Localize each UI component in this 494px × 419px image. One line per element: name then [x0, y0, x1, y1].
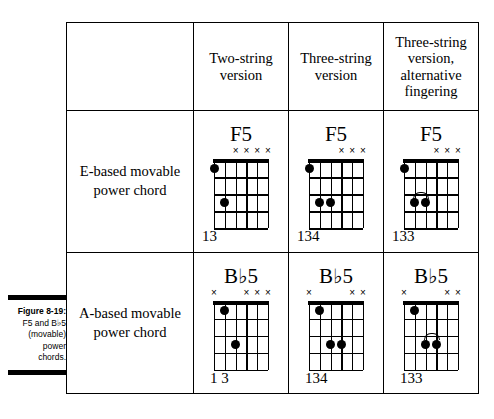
caption-line-1-pre: F5 and B [23, 318, 58, 328]
chord-quality: 5 [242, 122, 253, 146]
finger-dot [400, 164, 409, 173]
column-header-three-string-label: Three-string version [289, 50, 383, 83]
caption-line-4: chords. [8, 352, 66, 364]
fret-line [214, 319, 268, 320]
finger-dot [210, 164, 219, 173]
chord-quality: 5 [437, 264, 448, 288]
row-header-a-based: A-based movable power chord [67, 252, 194, 393]
fret-line [214, 194, 268, 195]
string-line [458, 302, 459, 370]
finger-numbers: 13 [202, 228, 280, 244]
chord-diagram: B♭5××××1 3 [202, 262, 280, 384]
column-header-three-string-alt: Three-string version, alternative finger… [384, 23, 479, 111]
mute-x-icon: × [443, 288, 452, 298]
nut [403, 159, 459, 163]
fretboard-grid [404, 160, 458, 228]
finger-numbers: 134 [297, 370, 383, 386]
string-line [363, 160, 364, 228]
chord-root: F [420, 122, 432, 146]
fret-line [214, 177, 268, 178]
chord-quality: 5 [342, 264, 353, 288]
table-row-e-based: E-based movable power chord F5××××13 F5×… [67, 111, 479, 252]
fret-line [309, 319, 363, 320]
mute-x-icon: × [242, 146, 251, 156]
caption-title: Figure 8-19: [8, 306, 66, 318]
caption-line-1: F5 and B♭5 [8, 318, 66, 330]
nut [308, 301, 364, 305]
string-line [268, 302, 269, 370]
finger-dot [315, 306, 324, 315]
fretboard-diagram: ××××13 [202, 146, 280, 242]
fret-line [214, 353, 268, 354]
chord-root: B [224, 264, 238, 288]
fretboard-grid [309, 160, 363, 228]
mute-x-icon: × [253, 146, 262, 156]
mute-x-icon: × [348, 146, 357, 156]
fret-line [309, 194, 363, 195]
finger-dot [220, 306, 229, 315]
mute-x-icon: × [443, 146, 452, 156]
table-header-row: Two-string version Three-string version … [67, 23, 479, 111]
chord-diagram: F5×××134 [297, 120, 375, 242]
muted-string-markers: ××× [297, 288, 375, 302]
muted-string-markers: ××× [297, 146, 375, 160]
mute-x-icon: × [337, 146, 346, 156]
chord-quality: 5 [432, 122, 443, 146]
chord-cell-bb5-two-string: B♭5××××1 3 [194, 252, 289, 393]
fret-line [404, 353, 458, 354]
figure-caption: Figure 8-19: F5 and B♭5 (movable) power … [8, 295, 66, 375]
fretboard-diagram: ×××134 [297, 146, 375, 242]
nut [213, 301, 269, 305]
mute-x-icon: × [454, 146, 463, 156]
muted-string-markers: ××× [392, 288, 470, 302]
finger-numbers: 133 [392, 370, 478, 386]
chord-root: B [319, 264, 333, 288]
table-row-a-based: A-based movable power chord B♭5××××1 3 B… [67, 252, 479, 393]
caption-rule-bottom [8, 370, 66, 375]
finger-dot [421, 198, 430, 207]
chord-diagram: F5×××133 [392, 120, 470, 242]
finger-dot [410, 306, 419, 315]
fret-line [214, 211, 268, 212]
muted-string-markers: ××× [392, 146, 470, 160]
fretboard-diagram: ×××133 [392, 288, 470, 384]
fretboard-diagram: ×××133 [392, 146, 470, 242]
finger-numbers: 134 [297, 228, 375, 244]
row-header-e-based: E-based movable power chord [67, 111, 194, 252]
finger-dot [432, 340, 441, 349]
mute-x-icon: × [359, 146, 368, 156]
column-header-three-string-alt-label: Three-string version, alternative finger… [384, 34, 478, 100]
chord-name: B♭5 [202, 264, 280, 288]
mute-x-icon: × [305, 288, 314, 298]
column-header-three-string: Three-string version [289, 23, 384, 111]
nut [213, 159, 269, 163]
muted-string-markers: ×××× [202, 288, 280, 302]
fret-line [404, 319, 458, 320]
fretboard-diagram: ××××1 3 [202, 288, 280, 384]
row-header-e-based-label: E-based movable power chord [67, 162, 193, 200]
string-line [268, 160, 269, 228]
fret-line [309, 211, 363, 212]
fret-line [309, 336, 363, 337]
fretboard-grid [214, 302, 268, 370]
chord-quality: 5 [337, 122, 348, 146]
fret-line [404, 211, 458, 212]
chord-name: B♭5 [297, 264, 375, 288]
mute-x-icon: × [231, 146, 240, 156]
fretboard-diagram: ×××134 [297, 288, 375, 384]
mute-x-icon: × [264, 288, 273, 298]
fretboard-grid [214, 160, 268, 228]
column-header-two-string: Two-string version [194, 23, 289, 111]
mute-x-icon: × [264, 146, 273, 156]
nut [403, 301, 459, 305]
finger-dot [337, 340, 346, 349]
chord-diagram: B♭5×××134 [297, 262, 375, 384]
nut [308, 159, 364, 163]
mute-x-icon: × [348, 288, 357, 298]
chord-name: B♭5 [392, 264, 470, 288]
chord-diagram: F5××××13 [202, 120, 280, 242]
column-header-two-string-label: Two-string version [194, 50, 288, 83]
chord-cell-f5-three-string-alt: F5×××133 [384, 111, 479, 252]
chord-name: F5 [297, 122, 375, 146]
row-header-a-based-label: A-based movable power chord [67, 304, 193, 342]
